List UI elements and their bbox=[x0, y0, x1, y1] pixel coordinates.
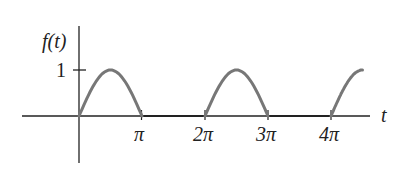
x-tick-label-3pi: 3π bbox=[256, 123, 276, 146]
x-tick-label-4pi: 4π bbox=[319, 123, 339, 146]
chart: f(t) 1 π 2π 3π 4π t bbox=[0, 0, 410, 174]
x-axis-label: t bbox=[381, 104, 387, 127]
function-curve bbox=[79, 70, 363, 116]
x-tick-label-2pi: 2π bbox=[193, 123, 213, 146]
y-axis-label: f(t) bbox=[42, 30, 66, 53]
plot-area bbox=[0, 0, 410, 174]
y-tick-label-1: 1 bbox=[56, 59, 66, 82]
x-tick-label-pi: π bbox=[134, 123, 144, 146]
